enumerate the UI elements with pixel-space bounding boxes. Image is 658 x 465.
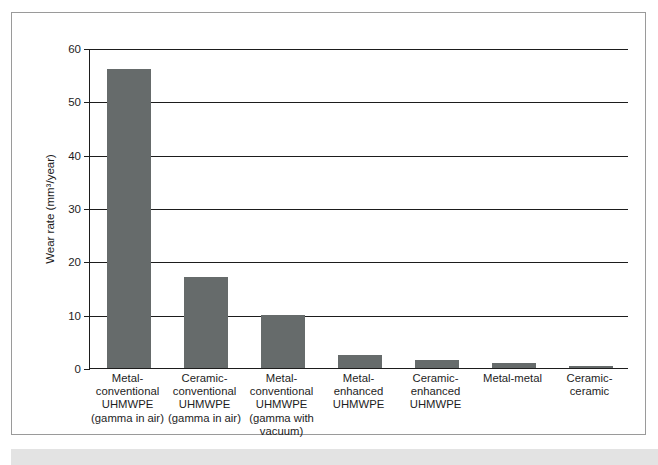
x-axis-label: Ceramic-conventionalUHMWPE(gamma in air)	[166, 372, 243, 425]
x-axis-label-line: enhanced	[397, 385, 474, 398]
footer-strip	[11, 449, 658, 465]
x-axis-labels: Metal-conventionalUHMWPE(gamma in air)Ce…	[89, 372, 628, 434]
x-axis-label: Ceramic-ceramic	[551, 372, 628, 398]
x-axis-label-line: (gamma in air)	[89, 412, 166, 425]
x-axis-label-line: (gamma in air)	[166, 412, 243, 425]
figure-frame: Wear rate (mm³/year) 0102030405060 Metal…	[11, 12, 646, 435]
x-axis-label: Metal-conventionalUHMWPE(gamma withvacuu…	[243, 372, 320, 438]
x-axis-label-line: ceramic	[551, 385, 628, 398]
x-axis-label-line: Metal-	[89, 372, 166, 385]
x-axis-label-line: Metal-metal	[474, 372, 551, 385]
x-axis-label-line: conventional	[166, 385, 243, 398]
y-axis-title: Wear rate (mm³/year)	[42, 49, 58, 369]
y-axis-tick-label: 20	[68, 256, 81, 268]
x-axis-label: Ceramic-enhancedUHMWPE	[397, 372, 474, 412]
y-axis-tick-label: 40	[68, 150, 81, 162]
x-axis-label-line: UHMWPE	[320, 398, 397, 411]
y-axis-tick-label: 0	[75, 363, 81, 375]
x-axis-label: Metal-enhancedUHMWPE	[320, 372, 397, 412]
x-axis-label-line: Metal-	[243, 372, 320, 385]
x-axis-label-line: conventional	[243, 385, 320, 398]
x-axis-label-line: vacuum)	[243, 425, 320, 438]
bar	[569, 366, 613, 368]
plot-area: 0102030405060	[89, 49, 628, 369]
x-axis-label-line: UHMWPE	[243, 398, 320, 411]
x-axis-label-line: UHMWPE	[89, 398, 166, 411]
x-axis-label-line: Metal-enhanced	[320, 372, 397, 398]
y-axis-tick	[84, 369, 90, 370]
bar	[107, 69, 151, 368]
y-axis-tick-label: 30	[68, 203, 81, 215]
bar	[184, 277, 228, 368]
x-axis-label-line: Ceramic-	[551, 372, 628, 385]
x-axis-label-line: UHMWPE	[397, 398, 474, 411]
bar	[338, 355, 382, 368]
bar	[415, 360, 459, 368]
x-axis-label: Metal-metal	[474, 372, 551, 385]
x-axis-label: Metal-conventionalUHMWPE(gamma in air)	[89, 372, 166, 425]
x-axis-label-line: UHMWPE	[166, 398, 243, 411]
y-axis-tick-label: 10	[68, 310, 81, 322]
y-axis-tick-label: 50	[68, 96, 81, 108]
bar	[492, 363, 536, 368]
x-axis-label-line: conventional	[89, 385, 166, 398]
x-axis-label-line: (gamma with	[243, 412, 320, 425]
y-axis-tick-label: 60	[68, 43, 81, 55]
x-axis-label-line: Ceramic-	[166, 372, 243, 385]
bar-series	[90, 49, 628, 368]
bar-chart: Wear rate (mm³/year) 0102030405060 Metal…	[12, 13, 647, 436]
bar	[261, 315, 305, 368]
y-axis-title-label: Wear rate (mm³/year)	[44, 154, 56, 264]
x-axis-label-line: Ceramic-	[397, 372, 474, 385]
